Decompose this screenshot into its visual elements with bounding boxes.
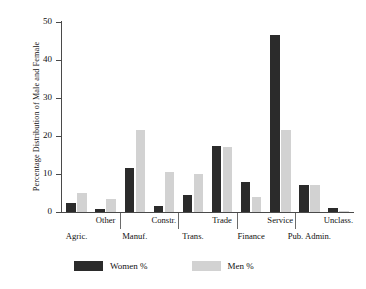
bar-unclass-women [328,208,338,212]
x-axis-line [61,212,354,213]
legend-swatch-men-icon [192,261,221,271]
bar-finance-women [241,182,251,212]
y-axis-title: Percentage Distribution of Male and Fema… [32,17,41,217]
bar-manuf-men [136,130,146,212]
bar-chart: Percentage Distribution of Male and Fema… [0,0,366,289]
bar-constr-men [165,172,175,212]
bar-trade-men [223,147,233,212]
x-axis-label-unclass: Unclass. [298,215,366,225]
bar-other-women [95,209,105,212]
legend-label-men: Men % [228,261,254,271]
bar-trade-women [212,146,222,213]
bar-trans-women [183,195,193,212]
y-axis-tick-label: 40 [32,54,52,64]
legend-swatch-women-icon [74,261,103,271]
bar-service-women [270,35,280,212]
bar-unclass-men [339,211,349,212]
bar-agric-men [77,193,87,212]
bar-agric-women [66,203,76,213]
y-axis-tick-label: 0 [32,206,52,216]
bar-trans-men [194,174,204,212]
bar-pub-admin-men [310,185,320,212]
bar-pub-admin-women [299,185,309,212]
bar-other-men [106,199,116,212]
plot-area [62,22,353,212]
bar-service-men [281,130,291,212]
legend-item-women: Women % [74,261,148,271]
chart-legend: Women % Men % [74,261,254,271]
x-axis-label-pub-admin: Pub. Admin. [269,231,349,241]
y-axis-tick [56,212,62,213]
y-axis-tick-label: 50 [32,16,52,26]
bar-finance-men [252,197,262,212]
legend-item-men: Men % [192,261,254,271]
legend-label-women: Women % [110,261,148,271]
y-axis-tick-label: 10 [32,168,52,178]
y-axis-tick-label: 30 [32,92,52,102]
bar-manuf-women [125,168,135,212]
y-axis-tick-label: 20 [32,130,52,140]
bar-constr-women [154,206,164,212]
